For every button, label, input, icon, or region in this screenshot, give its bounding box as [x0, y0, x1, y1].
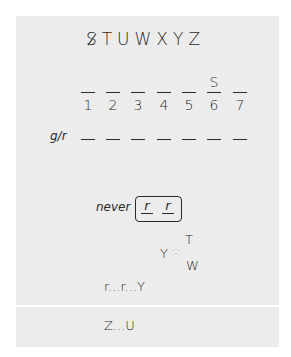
footer-panel — [16, 307, 279, 347]
slot-number: 7 — [233, 97, 247, 113]
slot-number: 6 — [207, 97, 221, 113]
wedge-dots: ·:· — [171, 245, 181, 256]
chain-rule-1: r...r...Y — [104, 279, 145, 294]
slot-line — [81, 92, 95, 93]
wedge-left: Y — [160, 246, 168, 261]
letter-pool: STUWXYZ — [0, 29, 291, 49]
never-slot: r — [162, 199, 174, 214]
slot-number: 3 — [131, 97, 145, 113]
never-slot: r — [141, 199, 153, 214]
slot-line — [182, 92, 196, 93]
slot-line — [207, 92, 221, 93]
chain-rule-2: Z...U — [104, 318, 135, 333]
slot-line — [131, 92, 145, 93]
gr-slot — [157, 139, 171, 140]
game-panel — [16, 16, 279, 305]
gr-slot — [233, 139, 247, 140]
gr-slot — [207, 139, 221, 140]
slot-number: 5 — [182, 97, 196, 113]
gr-slot — [106, 139, 120, 140]
gr-label: g/r — [50, 129, 67, 143]
remaining-letters: TUWXYZ — [102, 29, 205, 49]
slot-value-6: S — [207, 74, 221, 90]
gr-slot — [81, 139, 95, 140]
slot-line — [233, 92, 247, 93]
wedge-bottom: W — [186, 258, 199, 273]
wedge-top: T — [185, 232, 193, 247]
slot-number: 2 — [106, 97, 120, 113]
gr-slot — [182, 139, 196, 140]
crossed-letter: S — [86, 29, 102, 49]
gr-slot — [131, 139, 145, 140]
slot-number: 4 — [157, 97, 171, 113]
slot-line — [106, 92, 120, 93]
slot-number: 1 — [81, 97, 95, 113]
slot-line — [157, 92, 171, 93]
never-label: never — [96, 200, 130, 214]
